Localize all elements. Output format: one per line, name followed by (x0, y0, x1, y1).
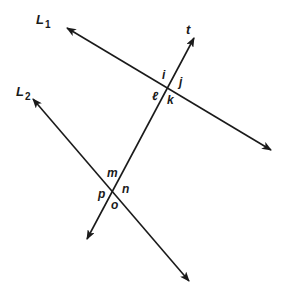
angle-label-k: k (167, 93, 175, 107)
line-label-t: t (186, 22, 191, 37)
transversal-diagram: L1L2tijℓkmnpo (0, 0, 286, 294)
line-label-L2: L2 (16, 84, 31, 102)
line-subscript-L2: 2 (25, 91, 31, 102)
angle-label-p: p (97, 187, 105, 201)
diagram-svg: L1L2tijℓkmnpo (0, 0, 286, 294)
angle-label-l: ℓ (152, 89, 159, 103)
angle-label-i: i (162, 68, 166, 82)
line-t (87, 38, 194, 239)
angle-label-j: j (177, 75, 183, 89)
line-subscript-L1: 1 (45, 19, 51, 30)
line-L1 (67, 28, 271, 150)
angle-label-m: m (107, 166, 118, 180)
angle-label-o: o (111, 198, 118, 212)
line-L2 (33, 99, 189, 281)
angle-label-n: n (122, 182, 129, 196)
line-label-L1: L1 (36, 12, 51, 30)
